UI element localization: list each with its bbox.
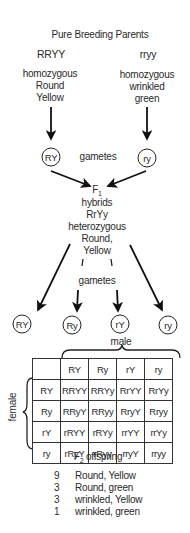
f2-count-2: 3 (54, 482, 59, 493)
punnett-col-header: RY (61, 359, 89, 380)
punnett-cell: RRYy (89, 380, 117, 401)
punnett-row-header: Ry (33, 401, 61, 422)
diagram-title: Pure Breeding Parents (52, 29, 149, 40)
f1-gamete-Ry: Ry (63, 316, 82, 335)
parent2-zygosity: homozygous (120, 69, 175, 80)
punnett-corner (33, 359, 61, 380)
female-label: female (7, 393, 18, 422)
f1-color: Yellow (83, 245, 110, 256)
f1-gamete-RY: RY (13, 315, 32, 334)
punnett-cell: rryy (145, 443, 173, 464)
parent2-genotype: rryy (140, 49, 157, 60)
punnett-cell: RRyY (61, 401, 89, 422)
punnett-row: Ry RRyY RRyy RryY Rryy (33, 401, 173, 422)
punnett-cell: RrYy (145, 380, 173, 401)
punnett-header-row: RY Ry rY ry (33, 359, 173, 380)
arrow-gamete1-to-f1 (51, 171, 90, 186)
punnett-cell: RRYY (61, 380, 89, 401)
f2-label: F2 offspring (74, 451, 123, 466)
f1-zygosity: heterozygous (68, 221, 126, 232)
punnett-cell: Rryy (145, 401, 173, 422)
punnett-col-header: rY (117, 359, 145, 380)
punnett-cell: RRyy (89, 401, 117, 422)
punnett-row: rY rRYY rRYy rrYY rrYy (33, 422, 173, 443)
arrow-f1-to-RY (38, 244, 70, 310)
f1-shape: Round, (81, 233, 112, 244)
punnett-cell: rrYy (145, 422, 173, 443)
punnett-cell: RrYY (117, 380, 145, 401)
punnett-square: RY Ry rY ry RY RRYY RRYy RrYY RrYy Ry RR… (32, 358, 173, 464)
punnett-row: RY RRYY RRYy RrYY RrYy (33, 380, 173, 401)
parent1-zygosity: homozygous (23, 68, 78, 79)
parent1-color: Yellow (36, 92, 63, 103)
punnett-row-header: ry (33, 443, 61, 464)
parent1-genotype: RRYY (37, 49, 65, 60)
gamete-circle-ry: ry (138, 149, 157, 168)
f1-gamete-ry: ry (159, 316, 178, 335)
f2-phenotype-3: wrinkled, Yellow (75, 494, 142, 505)
parent2-color: green (135, 93, 160, 104)
punnett-cell: rRYy (89, 422, 117, 443)
f2-count-3: 3 (54, 494, 59, 505)
f2-phenotype-2: Round, green (75, 482, 133, 493)
male-label: male (111, 336, 132, 347)
f2-phenotype-1: Round, Yellow (75, 470, 136, 481)
punnett-row-header: RY (33, 380, 61, 401)
arrow-f1-to-ry (130, 245, 162, 310)
punnett-cell: RryY (117, 401, 145, 422)
punnett-cell: rRYY (61, 422, 89, 443)
gametes-label: gametes (80, 151, 117, 162)
parent1-shape: Round (36, 80, 64, 91)
f2-count-1: 9 (54, 470, 59, 481)
f1-hybrids: hybrids (82, 197, 113, 208)
punnett-cell: rrYY (117, 422, 145, 443)
f2-count-4: 1 (54, 506, 59, 517)
arrow-f1-to-Ry (77, 290, 78, 311)
f1-gametes-label: gametes (79, 275, 116, 286)
punnett-col-header: ry (145, 359, 173, 380)
parent2-shape: wrinkled (129, 81, 164, 92)
f2-phenotype-4: wrinkled, green (75, 506, 140, 517)
arrow-gamete2-to-f1 (108, 171, 146, 186)
f1-gamete-rY: rY (111, 315, 130, 334)
punnett-col-header: Ry (89, 359, 117, 380)
f1-genotype: RrYy (86, 209, 107, 220)
punnett-row-header: rY (33, 422, 61, 443)
arrow-f1-to-rY (117, 290, 118, 311)
gamete-circle-RY: RY (42, 148, 61, 167)
